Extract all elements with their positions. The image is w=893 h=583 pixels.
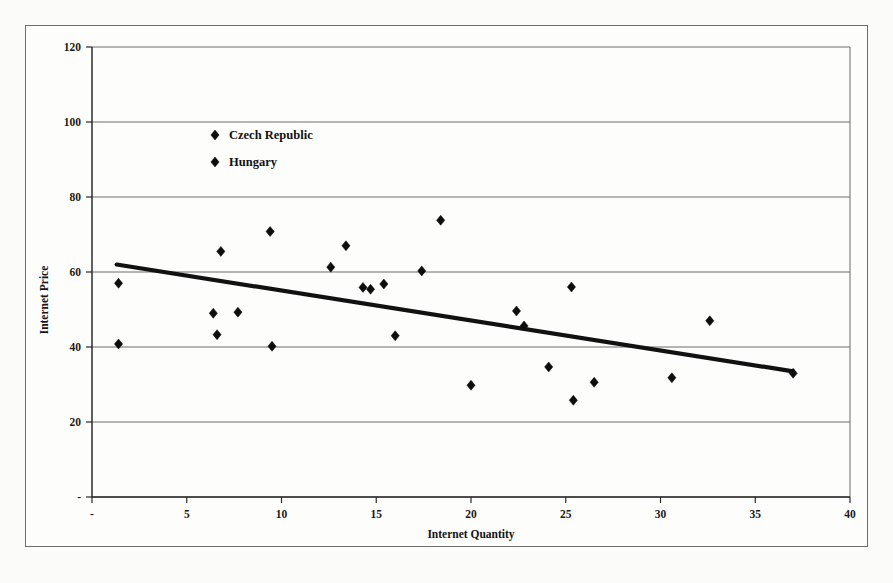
y-tick-label: 120: [64, 41, 82, 53]
data-point-marker: [380, 279, 388, 289]
data-point-marker: [590, 377, 598, 387]
data-point-marker: [114, 278, 122, 288]
data-point-marker: [437, 215, 445, 225]
scatter-chart: -20406080100120 -510152025303540 Czech R…: [0, 0, 893, 583]
y-tick-label: 100: [64, 116, 82, 128]
x-tick-label: 15: [371, 508, 383, 520]
data-point-marker: [391, 331, 399, 341]
x-tick-label: 20: [465, 508, 477, 520]
data-point-marker: [418, 266, 426, 276]
y-axis-title: Internet Price: [38, 266, 50, 335]
x-tick-label: 30: [655, 508, 667, 520]
legend-label-1: Czech Republic: [229, 128, 313, 142]
data-points: [114, 215, 797, 405]
trendline: [117, 265, 794, 372]
y-tick-label: 40: [70, 341, 82, 353]
data-point-marker: [266, 227, 274, 237]
data-point-marker: [213, 330, 221, 340]
x-tick-label: 10: [276, 508, 288, 520]
x-tick-label: 40: [844, 508, 856, 520]
legend-marker-1: [211, 130, 219, 140]
legend-marker-2: [211, 157, 219, 167]
legend-label-2: Hungary: [229, 155, 278, 169]
chart-legend: Czech RepublicHungary: [211, 128, 313, 169]
y-axis-ticks: -20406080100120: [64, 41, 92, 503]
data-point-marker: [366, 284, 374, 294]
y-tick-label: 60: [70, 266, 82, 278]
data-point-marker: [569, 395, 577, 405]
data-point-marker: [467, 380, 475, 390]
y-tick-label: -: [77, 491, 81, 503]
data-point-marker: [567, 282, 575, 292]
data-point-marker: [114, 339, 122, 349]
trend-line: [117, 265, 794, 372]
x-tick-label: 5: [184, 508, 190, 520]
data-point-marker: [706, 316, 714, 326]
data-point-marker: [327, 262, 335, 272]
data-point-marker: [545, 362, 553, 372]
data-point-marker: [234, 307, 242, 317]
data-point-marker: [217, 246, 225, 256]
data-point-marker: [512, 306, 520, 316]
y-tick-label: 20: [70, 416, 82, 428]
x-axis-ticks: -510152025303540: [90, 497, 856, 520]
x-tick-label: -: [90, 508, 94, 520]
data-point-marker: [209, 308, 217, 318]
x-axis-title: Internet Quantity: [427, 528, 514, 541]
gridlines: [92, 47, 850, 497]
data-point-marker: [668, 373, 676, 383]
x-tick-label: 35: [750, 508, 762, 520]
y-tick-label: 80: [70, 191, 82, 203]
data-point-marker: [342, 241, 350, 251]
x-tick-label: 25: [560, 508, 572, 520]
data-point-marker: [268, 341, 276, 351]
data-point-marker: [359, 282, 367, 292]
